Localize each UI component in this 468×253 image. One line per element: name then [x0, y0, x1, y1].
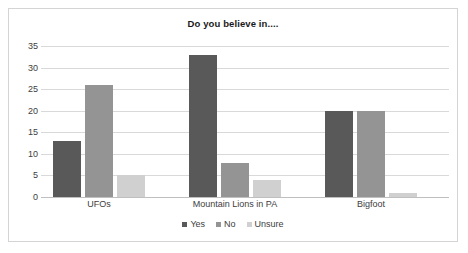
y-axis-tick-label: 20 [8, 106, 38, 116]
legend-swatch-icon [216, 222, 221, 227]
legend-item-no[interactable]: No [216, 219, 236, 229]
bar-yes-mountain-lions-in-pa[interactable] [189, 55, 217, 197]
bar-unsure-ufos[interactable] [117, 175, 145, 197]
y-axis-tick-label: 5 [8, 170, 38, 180]
y-axis-tick-label: 0 [8, 192, 38, 202]
bar-no-bigfoot[interactable] [357, 111, 385, 197]
bar-group [53, 46, 145, 197]
x-axis-label: Mountain Lions in PA [193, 199, 277, 209]
y-axis-tick-label: 35 [8, 41, 38, 51]
y-axis: 05101520253035 [9, 46, 38, 197]
bar-no-mountain-lions-in-pa[interactable] [221, 163, 249, 198]
x-axis-label: Bigfoot [357, 199, 385, 209]
bar-yes-bigfoot[interactable] [325, 111, 353, 197]
y-axis-tick-label: 10 [8, 149, 38, 159]
legend-label: Yes [190, 219, 205, 229]
chart-container: Do you believe in.... 05101520253035 UFO… [8, 8, 458, 242]
legend-item-yes[interactable]: Yes [182, 219, 205, 229]
y-axis-tick-label: 30 [8, 63, 38, 73]
legend-item-unsure[interactable]: Unsure [247, 219, 284, 229]
legend-label: No [224, 219, 236, 229]
x-axis-labels: UFOsMountain Lions in PABigfoot [41, 199, 449, 215]
bars-layer [41, 46, 449, 197]
gridline [41, 197, 449, 198]
chart-legend: YesNoUnsure [9, 219, 457, 229]
chart-title: Do you believe in.... [9, 18, 457, 29]
bar-group [189, 46, 281, 197]
bar-yes-ufos[interactable] [53, 141, 81, 197]
bar-unsure-mountain-lions-in-pa[interactable] [253, 180, 281, 197]
x-axis-label: UFOs [87, 199, 111, 209]
bar-no-ufos[interactable] [85, 85, 113, 197]
legend-label: Unsure [255, 219, 284, 229]
y-axis-tick-label: 15 [8, 127, 38, 137]
legend-swatch-icon [247, 222, 252, 227]
plot-area [41, 46, 449, 197]
bar-group [325, 46, 417, 197]
legend-swatch-icon [182, 222, 187, 227]
bar-unsure-bigfoot[interactable] [389, 193, 417, 197]
y-axis-tick-label: 25 [8, 84, 38, 94]
